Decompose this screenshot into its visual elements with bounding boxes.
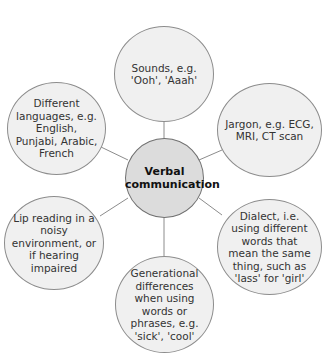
node-languages-label: Different languages, e.g. English, Punja…: [9, 97, 105, 160]
node-lip-reading-label: Lip reading in a noisy environment, or i…: [5, 212, 103, 275]
center-node-label: Verbal communication: [125, 165, 204, 191]
node-sounds-label: Sounds, e.g. 'Ooh', 'Aaah': [119, 62, 209, 87]
node-languages: Different languages, e.g. English, Punja…: [7, 82, 106, 175]
node-generational-label: Generational differences when using word…: [116, 267, 213, 342]
node-lip-reading: Lip reading in a noisy environment, or i…: [4, 196, 104, 290]
node-sounds: Sounds, e.g. 'Ooh', 'Aaah': [114, 26, 214, 122]
node-jargon: Jargon, e.g. ECG, MRI, CT scan: [217, 83, 322, 177]
node-dialect: Dialect, i.e. using different words that…: [217, 199, 322, 295]
center-node-verbal-communication: Verbal communication: [125, 138, 204, 218]
node-generational: Generational differences when using word…: [115, 256, 214, 353]
node-jargon-label: Jargon, e.g. ECG, MRI, CT scan: [219, 118, 321, 143]
node-dialect-label: Dialect, i.e. using different words that…: [220, 210, 320, 285]
